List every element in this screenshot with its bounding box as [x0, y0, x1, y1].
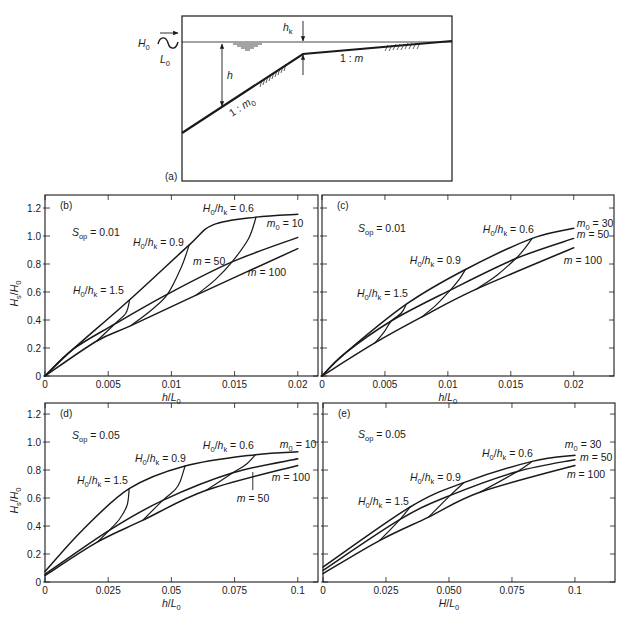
y-tick-label: 0.4: [27, 315, 41, 326]
curve-breaking-h0-hk-1.5: [97, 300, 130, 341]
x-tick-label: 0.050: [436, 585, 461, 596]
annotation: m = 100: [272, 471, 310, 483]
incident-wave-length-label: L0​: [160, 53, 170, 68]
annotation: H0​/hk​ = 0.6: [482, 447, 533, 462]
curve-breaking-h0-hk-1.5: [375, 304, 406, 343]
chart-panels: 00.0050.010.0150.0200.20.40.60.81.01.2h/…: [8, 195, 615, 612]
offshore-slope-label: 1 : m0​: [227, 94, 258, 122]
y-tick-label: 0.2: [27, 343, 41, 354]
annotation: m = 100: [564, 254, 602, 266]
annotation: m = 50: [580, 451, 613, 463]
y-tick-label: 0.8: [27, 259, 41, 270]
y-tick-label: 0.4: [27, 521, 41, 532]
x-tick-label: 0.015: [222, 379, 247, 390]
chart-panel-b: 00.0050.010.0150.0200.20.40.60.81.01.2h/…: [8, 195, 318, 406]
curve-slope-m-100: [322, 248, 574, 376]
x-tick-label: 0.01: [162, 379, 182, 390]
panel-label: (e): [338, 408, 350, 419]
x-tick-label: 0.02: [564, 379, 584, 390]
y-axis-label: Hs​/H0​: [8, 280, 23, 306]
x-axis-label: h/L0​: [438, 391, 457, 406]
annotation: H0​/hk​ = 0.9: [410, 254, 461, 269]
annotation: H0​/hk​ = 0.9: [135, 452, 186, 467]
x-tick-label: 0.05: [162, 585, 182, 596]
annotation: m0​ = 10: [280, 438, 317, 453]
x-axis-label: H/L0​: [439, 597, 460, 612]
annotation: H0​/hk​ = 1.5: [358, 495, 409, 510]
x-tick-label: 0.015: [498, 379, 523, 390]
annotation: H0​/hk​ = 0.6: [483, 223, 534, 238]
depth-label: h: [227, 69, 233, 81]
curve-breaking-h0-hk-0.9: [429, 483, 464, 517]
annotation: m = 50: [577, 228, 610, 240]
incident-wave-height-label: H0​: [138, 37, 150, 52]
diagram-frame: [182, 16, 452, 181]
panel-a-label: (a): [165, 171, 177, 182]
annotation: H0​/hk​ = 0.9: [410, 471, 461, 486]
y-tick-label: 1.0: [27, 231, 41, 242]
curve-breaking-h0-hk-0.9: [131, 245, 189, 325]
berm-depth-label: hk​: [283, 21, 293, 36]
x-tick-label: 0.1: [291, 585, 305, 596]
panel-label: (c): [337, 200, 349, 211]
x-tick-label: 0.005: [372, 379, 397, 390]
annotation: m0​ = 10: [267, 217, 304, 232]
x-tick-label: 0: [42, 585, 48, 596]
x-tick-label: 0: [320, 585, 326, 596]
y-tick-label: 0: [35, 577, 41, 588]
chart-panel-c: 00.0050.010.0150.02h/L0​(c)Sop​ = 0.01H0…: [319, 195, 614, 406]
chart-panel-d: 00.0250.050.0750.100.20.40.60.81.01.2h/L…: [8, 403, 318, 612]
y-tick-label: 0: [35, 371, 41, 382]
y-tick-label: 1.2: [27, 203, 41, 214]
annotation: m = 100: [248, 266, 286, 278]
y-tick-label: 1.0: [27, 437, 41, 448]
annotation: m = 50: [193, 255, 226, 267]
annotation: H0​/hk​ = 0.9: [133, 236, 184, 251]
annotation: m = 100: [567, 468, 605, 480]
panel-label: (d): [60, 408, 72, 419]
annotation: Sop​ = 0.05: [72, 429, 120, 444]
x-tick-label: 0.02: [288, 379, 308, 390]
curve-breaking-h0-hk-0.6: [480, 461, 532, 492]
curve-slope-m0-10: [45, 452, 298, 572]
x-tick-label: 0.01: [438, 379, 458, 390]
figure: H0​ L0​ h hk​ 1 : m0​ 1 : m (a) 00.0050.…: [0, 0, 628, 623]
x-tick-label: 0.1: [568, 585, 582, 596]
y-tick-label: 0.6: [27, 287, 41, 298]
panel-a-diagram: H0​ L0​ h hk​ 1 : m0​ 1 : m (a): [138, 16, 452, 182]
x-tick-label: 0.005: [96, 379, 121, 390]
incident-wave-icon: [158, 38, 178, 48]
annotation: Sop​ = 0.05: [358, 428, 406, 443]
y-tick-label: 0.8: [27, 465, 41, 476]
plot-frame: [323, 403, 615, 582]
x-tick-label: 0.025: [373, 585, 398, 596]
annotation: Sop​ = 0.01: [72, 226, 120, 241]
chart-panel-e: 00.0250.0500.0750.1H/L0​(e)Sop​ = 0.05H0…: [320, 403, 615, 612]
annotation: H0​/hk​ = 1.5: [73, 284, 124, 299]
water-surface-icon: [233, 44, 262, 50]
x-tick-label: 0.075: [222, 585, 247, 596]
x-tick-label: 0.075: [499, 585, 524, 596]
panel-label: (b): [60, 200, 72, 211]
annotation: m = 50: [237, 492, 270, 504]
annotation: H0​/hk​ = 1.5: [357, 287, 408, 302]
inshore-slope-label: 1 : m: [340, 52, 364, 64]
x-axis-label: h/L0​: [162, 597, 181, 612]
annotation: Sop​ = 0.01: [358, 222, 406, 237]
annotation: H0​/hk​ = 0.6: [203, 439, 254, 454]
y-tick-label: 1.2: [27, 409, 41, 420]
x-tick-label: 0.025: [96, 585, 121, 596]
y-tick-label: 0.2: [27, 549, 41, 560]
x-tick-label: 0: [319, 379, 325, 390]
y-axis-label: Hs​/H0​: [8, 487, 23, 513]
x-tick-label: 0: [42, 379, 48, 390]
annotation: H0​/hk​ = 0.6: [203, 202, 254, 217]
annotation: H0​/hk​ = 1.5: [77, 474, 128, 489]
seabed-profile: [182, 41, 452, 133]
y-tick-label: 0.6: [27, 493, 41, 504]
